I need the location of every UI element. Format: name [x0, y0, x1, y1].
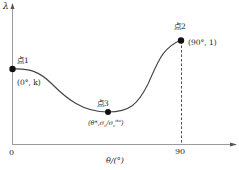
point-3-label: 点3 — [97, 100, 109, 108]
point-3-marker — [105, 109, 111, 115]
point-1-marker — [9, 66, 15, 72]
y-axis-label: λ — [3, 2, 9, 11]
point-2-coord: (90°, 1) — [188, 39, 217, 47]
point-1-label: 点1 — [17, 57, 29, 65]
point-2-marker — [178, 37, 184, 43]
point-3-coord-suffix: ) — [121, 119, 124, 127]
x-axis-arrow-icon — [230, 143, 237, 147]
point-1-coord: (0°, k) — [17, 79, 41, 87]
x-axis-label: θ/(°) — [106, 157, 124, 165]
point-3-coord-prefix: (θ*,σ — [88, 119, 104, 127]
y-axis-arrow-icon — [11, 3, 15, 9]
origin-label: 0 — [9, 149, 14, 157]
point-3-coord: (θ*,σc/σciso) — [88, 119, 124, 128]
point-2-label: 点2 — [174, 23, 186, 31]
x-tick-90: 90 — [175, 148, 185, 156]
